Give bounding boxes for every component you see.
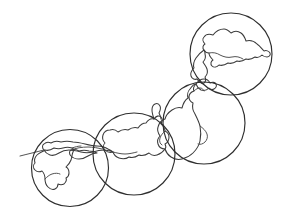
oshima-peninsula	[191, 50, 208, 83]
shimokita-peninsula	[196, 79, 216, 90]
landmass-kyushu	[34, 147, 74, 189]
ariake-sea-coast	[45, 173, 60, 179]
coverage-circle-tohoku[interactable]	[163, 82, 245, 164]
landmass-hokkaido	[203, 29, 270, 67]
coverage-circle-hokkaido[interactable]	[190, 13, 272, 95]
coast-overlap-east	[113, 152, 137, 154]
landmass-tohoku	[158, 84, 201, 159]
figure-canvas	[0, 0, 282, 221]
japan-coverage-diagram	[0, 0, 282, 221]
hokkaido-inner-coast	[209, 53, 243, 59]
